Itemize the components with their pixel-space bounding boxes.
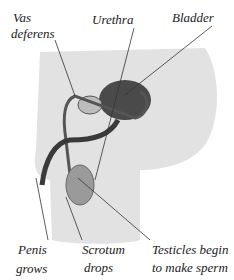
label-scrotum-line1: Scrotum [82, 242, 125, 257]
label-bladder: Bladder [172, 10, 214, 25]
label-testicles-line2: to make sperm [152, 260, 228, 275]
testicle-shape [66, 165, 94, 205]
label-penis-line2: grows [16, 261, 47, 276]
label-vas-deferens-line2: deferens [11, 26, 55, 41]
body-silhouette [35, 48, 217, 244]
label-vas-deferens-line1: Vas [13, 10, 31, 25]
label-testicles-line1: Testicles begin [152, 242, 228, 257]
label-urethra: Urethra [92, 12, 133, 27]
anatomy-illustration [0, 0, 234, 280]
label-scrotum-line2: drops [84, 260, 113, 275]
leader-penis [36, 178, 48, 240]
label-penis-line1: Penis [18, 242, 47, 257]
